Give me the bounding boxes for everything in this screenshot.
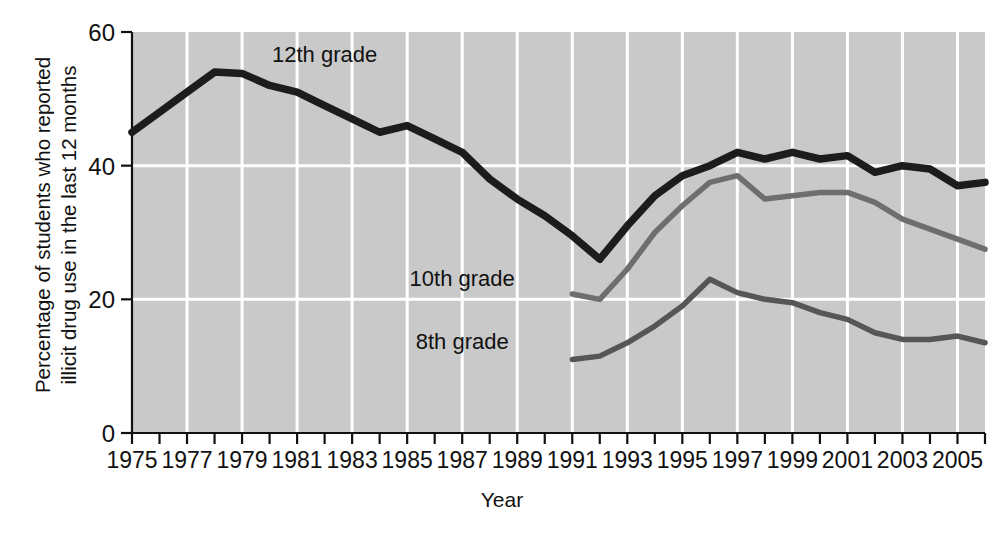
x-tick-label: 1975 <box>106 447 157 473</box>
y-axis-title-line-1: Percentage of students who reported <box>31 57 54 393</box>
x-tick-label: 2001 <box>822 447 873 473</box>
drug-use-line-chart: 1975197719791981198319851987198919911993… <box>0 0 1005 536</box>
x-tick-label: 1977 <box>161 447 212 473</box>
x-tick-label: 1985 <box>382 447 433 473</box>
x-axis-title: Year <box>481 488 523 511</box>
x-tick-label: 1987 <box>437 447 488 473</box>
y-tick-label: 40 <box>88 153 115 180</box>
plot-area-background <box>132 32 985 433</box>
x-tick-label: 1995 <box>657 447 708 473</box>
x-tick-label: 1999 <box>767 447 818 473</box>
x-tick-label: 1991 <box>547 447 598 473</box>
y-tick-label: 0 <box>102 420 115 447</box>
x-tick-label: 2003 <box>877 447 928 473</box>
plot-area <box>132 32 985 433</box>
x-tick-label: 1983 <box>327 447 378 473</box>
series-label-10th-grade: 10th grade <box>410 266 515 291</box>
x-tick-label: 1979 <box>216 447 267 473</box>
series-label-8th-grade: 8th grade <box>416 329 509 354</box>
x-tick-label: 1981 <box>272 447 323 473</box>
y-tick-label: 20 <box>88 286 115 313</box>
x-tick-label: 2005 <box>932 447 983 473</box>
y-tick-label: 60 <box>88 19 115 46</box>
x-tick-label: 1997 <box>712 447 763 473</box>
chart-container: 1975197719791981198319851987198919911993… <box>0 0 1005 536</box>
x-tick-label: 1989 <box>492 447 543 473</box>
series-label-12th-grade: 12th grade <box>272 42 377 67</box>
y-axis-title-line-2: illicit drug use in the last 12 months <box>57 65 80 384</box>
x-tick-label: 1993 <box>602 447 653 473</box>
